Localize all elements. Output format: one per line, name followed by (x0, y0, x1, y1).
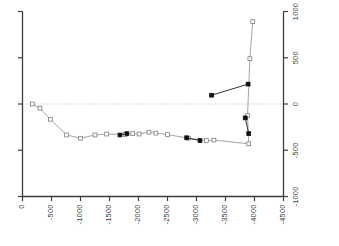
data-point-marker (210, 93, 214, 97)
data-point-marker (38, 106, 42, 110)
y-axis-tick-label: 1000 (291, 3, 300, 20)
series-filled-marker-series-lower (243, 116, 250, 136)
data-point-marker (154, 131, 158, 135)
data-point-marker (204, 139, 208, 143)
x-axis-tick-label: -4000 (249, 205, 258, 225)
y-axis-tick-label: 0 (291, 102, 300, 106)
data-point-marker (166, 133, 170, 137)
x-axis-tick-label: -1000 (75, 205, 84, 225)
data-point-marker (185, 136, 189, 140)
series-open-marker-series (30, 20, 254, 146)
scatter-line-chart: 0-500-1000-1500-2000-2500-3000-3500-4000… (0, 0, 339, 246)
data-point-marker (247, 142, 251, 146)
data-point-marker (247, 132, 251, 136)
data-point-marker (65, 133, 69, 137)
x-axis-tick-label: -3000 (191, 205, 200, 225)
data-point-marker (118, 133, 122, 137)
data-point-marker (198, 139, 202, 143)
series-filled-marker-series (210, 82, 250, 97)
x-axis-tick-label: 0 (17, 205, 26, 209)
data-point-marker (248, 57, 252, 61)
data-point-marker (30, 102, 34, 106)
x-axis-tick-label: -2000 (133, 205, 142, 225)
data-point-marker (246, 82, 250, 86)
x-axis-tick-label: -3500 (220, 205, 229, 225)
y-axis-tick-label: -500 (291, 142, 300, 158)
data-point-marker (105, 132, 109, 136)
x-axis-tick-label: -4500 (278, 205, 287, 225)
series-line (212, 84, 249, 95)
series-line (32, 22, 252, 144)
x-axis-tick-label: -1500 (104, 205, 113, 225)
data-point-marker (212, 138, 216, 142)
data-point-marker (125, 132, 129, 136)
x-axis-tick-label: -2500 (162, 205, 171, 225)
data-point-marker (48, 117, 52, 121)
data-point-marker (243, 116, 247, 120)
data-point-marker (93, 133, 97, 137)
y-axis-tick-label: 500 (291, 51, 300, 64)
data-point-marker (137, 132, 141, 136)
x-axis-tick-label: -500 (46, 205, 55, 221)
data-point-marker (251, 20, 255, 24)
data-point-marker (131, 132, 135, 136)
y-axis-tick-label: -1000 (291, 187, 300, 207)
series-filled-marker-series-mid2 (185, 136, 202, 143)
data-point-marker (79, 136, 83, 140)
data-point-marker (147, 130, 151, 134)
chart-canvas: 0-500-1000-1500-2000-2500-3000-3500-4000… (0, 0, 339, 246)
